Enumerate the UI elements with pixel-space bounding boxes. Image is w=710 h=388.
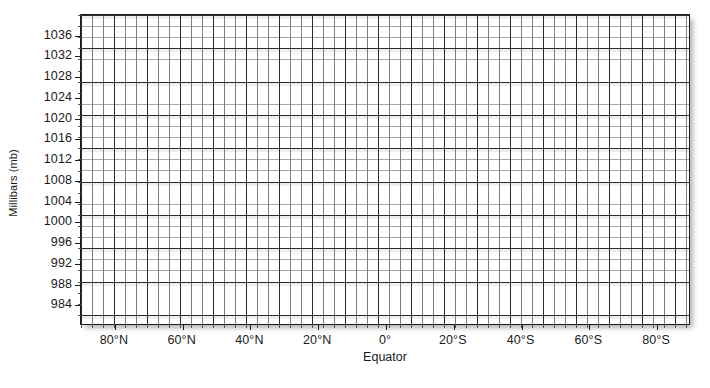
x-minor-tick-mark [158, 324, 159, 328]
y-tick-label: 1024 [0, 90, 72, 104]
y-tick-mark [75, 202, 81, 203]
y-tick-label: 1020 [0, 111, 72, 125]
x-minor-tick-mark [433, 324, 434, 328]
plot-area [80, 14, 690, 325]
x-minor-tick-mark [202, 324, 203, 328]
y-minor-tick-mark [78, 93, 82, 94]
y-minor-tick-mark [78, 270, 82, 271]
x-minor-tick-mark [631, 324, 632, 328]
x-minor-tick-mark [675, 324, 676, 328]
x-minor-tick-mark [103, 324, 104, 328]
x-minor-tick-mark [499, 324, 500, 328]
x-minor-tick-mark [224, 324, 225, 328]
y-minor-tick-mark [78, 226, 82, 227]
x-minor-tick-mark [444, 324, 445, 328]
y-minor-tick-mark [78, 282, 82, 283]
x-minor-tick-mark [455, 324, 456, 328]
x-minor-tick-mark [125, 324, 126, 328]
x-minor-tick-mark [554, 324, 555, 328]
x-minor-tick-mark [180, 324, 181, 328]
y-minor-tick-mark [78, 259, 82, 260]
y-minor-tick-mark [78, 37, 82, 38]
x-minor-tick-mark [598, 324, 599, 328]
x-tick-label: 0° [379, 333, 391, 347]
x-axis-tick-labels: 80°N60°N40°N20°N0°Equator20°S40°S60°S80°… [80, 333, 690, 373]
grid-major-lines [81, 15, 689, 324]
x-tick-label: 60°S [575, 333, 603, 347]
y-minor-tick-mark [78, 215, 82, 216]
x-minor-tick-mark [653, 324, 654, 328]
y-tick-mark [75, 77, 81, 78]
x-minor-tick-mark [356, 324, 357, 328]
y-tick-label: 996 [0, 235, 72, 249]
y-tick-mark [75, 139, 81, 140]
y-tick-mark [75, 56, 81, 57]
y-tick-mark [75, 119, 81, 120]
y-tick-label: 988 [0, 277, 72, 291]
x-minor-tick-mark [191, 324, 192, 328]
y-minor-tick-mark [78, 204, 82, 205]
y-tick-mark [75, 98, 81, 99]
y-minor-tick-mark [78, 315, 82, 316]
y-tick-label: 1012 [0, 152, 72, 166]
y-tick-label: 1008 [0, 173, 72, 187]
y-minor-tick-mark [78, 59, 82, 60]
y-minor-tick-mark [78, 193, 82, 194]
y-minor-tick-mark [78, 248, 82, 249]
x-minor-tick-mark [235, 324, 236, 328]
y-minor-tick-mark [78, 182, 82, 183]
x-tick-mark [318, 324, 319, 330]
x-minor-tick-mark [92, 324, 93, 328]
x-minor-tick-mark [620, 324, 621, 328]
x-minor-tick-mark [114, 324, 115, 328]
pressure-latitude-grid-chart: Millibars (mb) 1036103210281024102010161… [0, 0, 710, 388]
x-minor-tick-mark [169, 324, 170, 328]
x-minor-tick-mark [642, 324, 643, 328]
y-minor-tick-mark [78, 71, 82, 72]
x-tick-mark [183, 324, 184, 330]
x-tick-label: 60°N [167, 333, 195, 347]
x-minor-tick-mark [246, 324, 247, 328]
x-minor-tick-mark [532, 324, 533, 328]
x-minor-tick-mark [477, 324, 478, 328]
y-tick-label: 1028 [0, 69, 72, 83]
y-tick-label: 1000 [0, 214, 72, 228]
x-minor-tick-mark [268, 324, 269, 328]
x-tick-label: 80°N [100, 333, 128, 347]
y-tick-label: 1032 [0, 48, 72, 62]
x-minor-tick-mark [543, 324, 544, 328]
y-minor-tick-mark [78, 26, 82, 27]
x-minor-tick-mark [367, 324, 368, 328]
x-minor-tick-mark [400, 324, 401, 328]
x-minor-tick-mark [136, 324, 137, 328]
y-axis-tick-labels: 1036103210281024102010161012100810041000… [0, 14, 72, 325]
x-tick-mark [250, 324, 251, 330]
x-minor-tick-mark [147, 324, 148, 328]
x-minor-tick-mark [345, 324, 346, 328]
x-minor-tick-mark [664, 324, 665, 328]
y-tick-label: 1036 [0, 28, 72, 42]
x-minor-tick-mark [565, 324, 566, 328]
x-tick-label: 20°N [303, 333, 331, 347]
x-minor-tick-mark [378, 324, 379, 328]
x-minor-tick-mark [290, 324, 291, 328]
y-tick-mark [75, 305, 81, 306]
x-tick-mark [589, 324, 590, 330]
x-tick-label: 20°S [439, 333, 467, 347]
y-tick-mark [75, 222, 81, 223]
x-tick-label: 40°N [235, 333, 263, 347]
x-tick-label: 40°S [507, 333, 535, 347]
x-minor-tick-mark [587, 324, 588, 328]
x-tick-mark [657, 324, 658, 330]
y-minor-tick-mark [78, 48, 82, 49]
x-minor-tick-mark [609, 324, 610, 328]
x-minor-tick-mark [312, 324, 313, 328]
x-minor-tick-mark [422, 324, 423, 328]
y-tick-label: 992 [0, 256, 72, 270]
x-minor-tick-mark [334, 324, 335, 328]
y-tick-label: 1016 [0, 131, 72, 145]
y-minor-tick-mark [78, 159, 82, 160]
y-minor-tick-mark [78, 304, 82, 305]
y-minor-tick-mark [78, 115, 82, 116]
x-minor-tick-mark [521, 324, 522, 328]
